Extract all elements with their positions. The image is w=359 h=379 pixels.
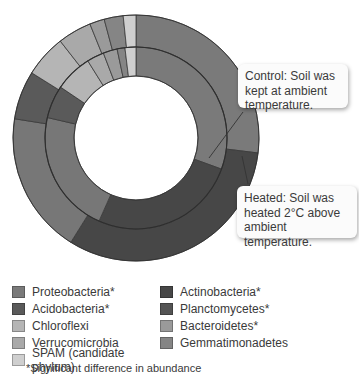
legend-label: Chloroflexi <box>32 319 89 333</box>
legend-swatch <box>160 286 173 298</box>
heated-callout: Heated: Soil was heated 2°C above ambien… <box>237 186 357 238</box>
legend-swatch <box>12 286 25 298</box>
control-callout: Control: Soil was kept at ambient temper… <box>238 64 348 108</box>
legend-item: Planctomycetes* <box>160 301 330 316</box>
legend-item: Chloroflexi <box>12 318 160 333</box>
legend-item: Bacteroidetes* <box>160 318 330 333</box>
legend-swatch <box>12 337 25 349</box>
donut-rings <box>13 15 259 261</box>
legend-swatch <box>12 354 25 366</box>
legend-swatch <box>160 337 173 349</box>
legend-footnote: *Significant difference in abundance <box>26 362 201 374</box>
legend-swatch <box>12 320 25 332</box>
ring-outline <box>74 76 198 200</box>
legend-swatch <box>160 320 173 332</box>
legend-item: Gemmatimonadetes <box>160 335 330 350</box>
legend-label: Acidobacteria* <box>32 302 109 316</box>
legend-item: Actinobacteria* <box>160 284 330 299</box>
legend: Proteobacteria*Actinobacteria*Acidobacte… <box>12 284 352 367</box>
legend-label: Proteobacteria* <box>32 285 115 299</box>
legend-label: Actinobacteria* <box>180 285 261 299</box>
legend-swatch <box>12 303 25 315</box>
legend-grid: Proteobacteria*Actinobacteria*Acidobacte… <box>12 284 352 367</box>
legend-item: Proteobacteria* <box>12 284 160 299</box>
legend-label: Gemmatimonadetes <box>180 336 288 350</box>
legend-swatch <box>160 303 173 315</box>
legend-item: Acidobacteria* <box>12 301 160 316</box>
legend-label: Planctomycetes* <box>180 302 269 316</box>
legend-label: Bacteroidetes* <box>180 319 258 333</box>
